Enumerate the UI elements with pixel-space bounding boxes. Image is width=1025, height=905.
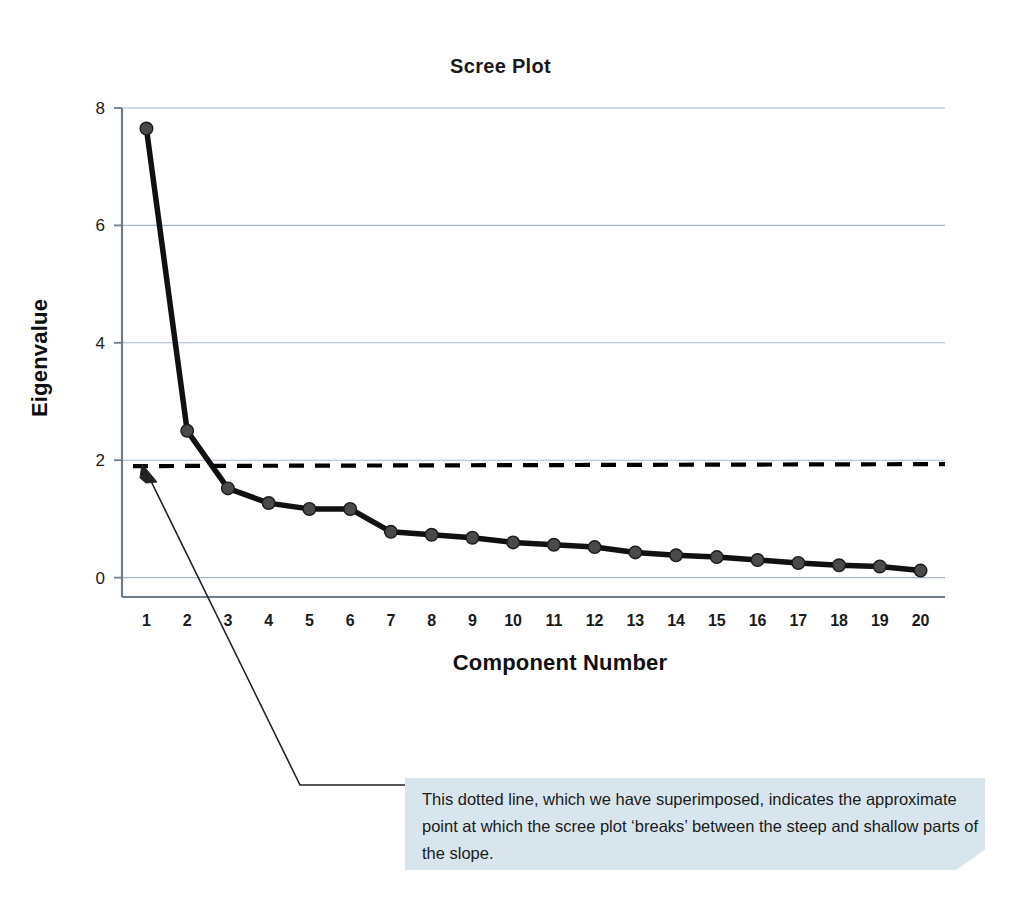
x-tick-label: 15 <box>708 612 726 629</box>
data-point <box>670 549 683 562</box>
data-point <box>181 425 194 438</box>
data-point <box>548 538 561 551</box>
x-tick-labels: 1234567891011121314151617181920 <box>142 612 930 629</box>
x-tick-label: 11 <box>545 612 562 629</box>
data-point <box>140 122 153 135</box>
x-tick-label: 4 <box>264 612 273 629</box>
data-point <box>466 531 479 544</box>
callout-text: This dotted line, which we have superimp… <box>422 786 982 867</box>
data-point <box>874 560 887 573</box>
data-point <box>792 557 805 570</box>
x-tick-label: 2 <box>183 612 192 629</box>
y-tick-label: 0 <box>96 569 105 588</box>
callout-leader-arrowhead <box>140 464 157 483</box>
scree-plot-figure: Scree Plot Eigenvalue Component Number 0… <box>0 0 1025 905</box>
break-point-dashed-line <box>133 464 945 466</box>
x-tick-label: 9 <box>468 612 477 629</box>
x-tick-label: 18 <box>830 612 848 629</box>
x-tick-label: 1 <box>142 612 151 629</box>
data-point <box>425 528 438 541</box>
x-tick-label: 5 <box>305 612 314 629</box>
data-point <box>914 564 927 577</box>
plot-area: 02468 1234567891011121314151617181920 <box>0 0 1025 905</box>
y-tick-labels: 02468 <box>96 99 105 588</box>
x-tick-label: 17 <box>789 612 807 629</box>
x-tick-label: 14 <box>667 612 685 629</box>
data-point <box>588 541 601 554</box>
data-point <box>344 503 357 516</box>
y-tick-label: 6 <box>96 216 105 235</box>
x-tick-label: 3 <box>223 612 232 629</box>
callout-paragraph: This dotted line, which we have superimp… <box>422 786 982 867</box>
data-point <box>711 551 724 564</box>
y-tick-label: 2 <box>96 451 105 470</box>
data-point <box>222 482 235 495</box>
x-tick-label: 16 <box>749 612 767 629</box>
data-point <box>629 546 642 559</box>
x-tick-label: 10 <box>504 612 522 629</box>
data-point <box>833 559 846 572</box>
page-canvas: Scree Plot Eigenvalue Component Number 0… <box>0 0 1025 905</box>
x-tick-label: 6 <box>346 612 355 629</box>
data-series-markers <box>140 122 927 577</box>
x-tick-label: 13 <box>626 612 644 629</box>
data-point <box>262 497 275 510</box>
gridlines <box>122 108 945 578</box>
x-tick-label: 12 <box>586 612 604 629</box>
x-tick-label: 8 <box>427 612 436 629</box>
y-tick-label: 4 <box>96 334 105 353</box>
x-tick-label: 19 <box>871 612 889 629</box>
y-tick-label: 8 <box>96 99 105 118</box>
y-tick-marks <box>114 108 122 578</box>
data-point <box>751 554 764 567</box>
x-tick-label: 20 <box>912 612 930 629</box>
data-point <box>507 536 520 549</box>
data-point <box>303 503 316 516</box>
data-point <box>385 526 398 539</box>
x-tick-label: 7 <box>386 612 395 629</box>
